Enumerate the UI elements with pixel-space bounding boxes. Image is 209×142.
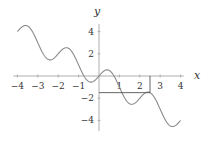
x-tick-label: 2: [137, 81, 143, 91]
x-tick-label: −3: [31, 81, 45, 91]
x-tick-label: −4: [11, 81, 25, 91]
x-axis-label: x: [194, 69, 201, 82]
y-tick-label: −2: [81, 93, 94, 103]
x-tick-label: −1: [72, 81, 85, 91]
y-tick-label: −4: [81, 115, 95, 125]
y-axis-label: y: [93, 5, 101, 18]
y-tick-label: 4: [88, 27, 94, 37]
x-tick-label: 4: [178, 81, 184, 91]
x-tick-label: −2: [52, 81, 65, 91]
x-tick-label: 3: [157, 81, 163, 91]
function-plot: −4−3−2−1123442−2−4 x y: [0, 0, 209, 142]
axes: [13, 24, 183, 131]
y-tick-label: 2: [88, 49, 94, 59]
